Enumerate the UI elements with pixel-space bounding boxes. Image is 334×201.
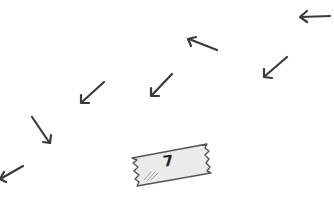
arrow-down-left-icon <box>81 82 104 103</box>
arrow-down-left-icon <box>0 166 23 182</box>
arrow-up-left-icon <box>188 37 217 50</box>
tape-number-label: 7 <box>162 153 174 169</box>
illustration-canvas: 7 <box>0 0 334 201</box>
arrow-down-left-icon <box>151 74 172 96</box>
arrow-down-left-icon <box>264 57 287 78</box>
arrow-path-layer <box>0 0 334 201</box>
arrow-left-icon <box>300 11 330 22</box>
arrow-down-right-icon <box>32 117 51 143</box>
